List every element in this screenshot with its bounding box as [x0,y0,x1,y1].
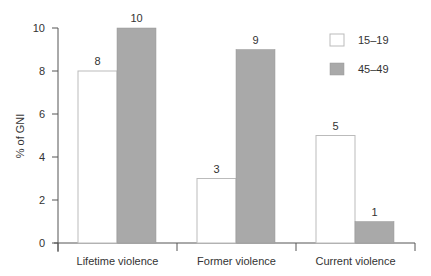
y-axis-ticks: 0246810 [33,22,58,249]
legend-swatch-15-19 [330,34,344,46]
y-tick-label: 0 [39,237,45,249]
bar-value-label: 9 [252,34,258,46]
bars-group: 8103951 [78,12,394,243]
legend-swatch-45-49 [330,63,344,75]
bar-45-49 [236,50,275,244]
y-tick-label: 8 [39,65,45,77]
bar-15-19 [197,179,236,244]
x-category-label: Current violence [315,255,395,267]
legend-label-15-19: 15–19 [358,34,389,46]
x-category-label: Lifetime violence [77,255,159,267]
y-tick-label: 2 [39,194,45,206]
bar-chart: 0246810 Lifetime violenceFormer violence… [0,0,431,276]
y-axis-title: % of GNI [14,114,26,159]
bar-15-19 [78,71,117,243]
bar-value-label: 3 [213,163,219,175]
y-tick-label: 6 [39,108,45,120]
bar-45-49 [117,28,156,243]
bar-15-19 [316,136,355,244]
legend-label-45-49: 45–49 [358,63,389,75]
bar-value-label: 5 [332,120,338,132]
y-tick-label: 10 [33,22,45,34]
bar-value-label: 1 [371,206,377,218]
legend: 15–19 45–49 [330,34,389,75]
bar-value-label: 10 [130,12,142,24]
x-axis-ticks: Lifetime violenceFormer violenceCurrent … [58,243,415,267]
x-category-label: Former violence [197,255,276,267]
bar-45-49 [355,222,394,244]
y-tick-label: 4 [39,151,45,163]
bar-value-label: 8 [94,55,100,67]
